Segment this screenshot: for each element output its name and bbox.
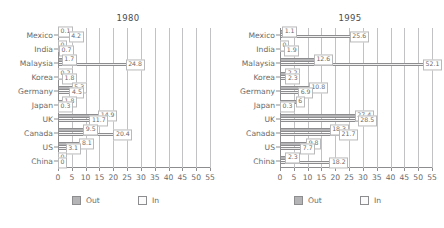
chart-row: US8.13.1: [58, 140, 210, 154]
chart-row: China2.318.2: [280, 154, 432, 168]
chart-row: Malaysia12.652.1: [280, 56, 432, 70]
chart-row: China00: [58, 154, 210, 168]
chart-row: UK14.911.7: [58, 112, 210, 126]
category-label: UK: [42, 115, 53, 124]
category-label: Japan: [32, 101, 53, 110]
x-tick: [210, 168, 211, 171]
x-tick: [404, 168, 405, 171]
value-label-in: 21.7: [339, 129, 358, 140]
category-label: China: [31, 157, 53, 166]
chart-row: Malaysia1.724.8: [58, 56, 210, 70]
chart-figure: 1980 Mexico0.14.2India00.7Malaysia1.724.…: [0, 0, 444, 228]
value-label-out: 1.7: [62, 54, 77, 65]
x-tick: [335, 168, 336, 171]
gridline: [210, 28, 211, 168]
x-tick-label: 55: [427, 173, 437, 182]
x-tick: [349, 168, 350, 171]
legend-item-in: In: [360, 196, 381, 205]
legend-item-in: In: [138, 196, 159, 205]
chart-row: Germany5.34.5: [58, 84, 210, 98]
x-tick-label: 25: [122, 173, 132, 182]
bar-out: [280, 58, 315, 61]
x-tick: [418, 168, 419, 171]
bar-in: [58, 119, 90, 122]
category-label: Canada: [24, 129, 53, 138]
x-tick: [182, 168, 183, 171]
value-label-out: 6: [296, 96, 305, 107]
x-tick-label: 30: [358, 173, 368, 182]
x-tick-label: 40: [386, 173, 396, 182]
x-tick-label: 50: [191, 173, 201, 182]
category-label: Malaysia: [242, 59, 275, 68]
x-tick: [377, 168, 378, 171]
x-tick-label: 35: [150, 173, 160, 182]
category-label: China: [253, 157, 275, 166]
value-label-out: 2.3: [285, 152, 300, 163]
x-axis-1980: 0510152025303540455055: [58, 168, 210, 190]
chart-row: Mexico0.14.2: [58, 28, 210, 42]
legend-label-in: In: [374, 196, 381, 205]
value-label-in: 20.4: [113, 129, 132, 140]
value-label-in: 0.3: [280, 101, 295, 112]
plot-area-1980: Mexico0.14.2India00.7Malaysia1.724.8Kore…: [58, 28, 210, 168]
legend-1995: Out In: [280, 196, 436, 218]
category-label: Germany: [240, 87, 275, 96]
chart-row: Mexico1.125.6: [280, 28, 432, 42]
x-tick-label: 15: [95, 173, 105, 182]
x-tick-label: 0: [278, 173, 283, 182]
bar-in: [280, 63, 424, 66]
x-tick: [363, 168, 364, 171]
chart-row: US9.87.7: [280, 140, 432, 154]
panel-title-text: 1995: [305, 13, 362, 23]
x-tick-label: 15: [317, 173, 327, 182]
value-label-out: 1.1: [282, 26, 297, 37]
panel-title-1980: 1980: [0, 13, 222, 23]
gridline: [432, 28, 433, 168]
value-label-in: 1.9: [284, 45, 299, 56]
plot-area-1995: Mexico1.125.6India01.9Malaysia12.652.1Ko…: [280, 28, 432, 168]
bar-rows-1980: Mexico0.14.2India00.7Malaysia1.724.8Kore…: [58, 28, 210, 168]
category-label: Japan: [254, 101, 275, 110]
value-label-in: 0: [58, 157, 67, 168]
legend-item-out: Out: [294, 196, 322, 205]
chart-row: UK27.428.5: [280, 112, 432, 126]
x-tick: [113, 168, 114, 171]
legend-swatch-out-icon: [294, 196, 303, 205]
chart-row: India00.7: [58, 42, 210, 56]
legend-swatch-in-icon: [138, 196, 147, 205]
legend-label-out: Out: [86, 196, 100, 205]
chart-row: India01.9: [280, 42, 432, 56]
chart-row: Canada18.321.7: [280, 126, 432, 140]
x-tick: [294, 168, 295, 171]
x-tick-label: 10: [303, 173, 313, 182]
x-tick-label: 10: [81, 173, 91, 182]
panel-title-1995: 1995: [222, 13, 444, 23]
value-label-in: 0.3: [58, 101, 73, 112]
x-tick: [141, 168, 142, 171]
chart-panel-1980: 1980 Mexico0.14.2India00.7Malaysia1.724.…: [0, 0, 222, 228]
x-tick: [58, 168, 59, 171]
value-label-in: 25.6: [350, 31, 369, 42]
x-tick: [99, 168, 100, 171]
bar-in: [280, 91, 299, 94]
x-tick: [72, 168, 73, 171]
value-label-in: 52.1: [423, 59, 442, 70]
legend-label-out: Out: [308, 196, 322, 205]
value-label-in: 2.3: [285, 73, 300, 84]
x-axis-1995: 0510152025303540455055: [280, 168, 432, 190]
category-label: India: [34, 45, 53, 54]
x-tick-label: 0: [56, 173, 61, 182]
value-label-in: 24.8: [126, 59, 145, 70]
bar-out: [58, 128, 84, 131]
value-label-in: 18.2: [329, 157, 348, 168]
legend-swatch-out-icon: [72, 196, 81, 205]
category-label: US: [43, 143, 53, 152]
category-label: Mexico: [248, 31, 275, 40]
x-tick: [432, 168, 433, 171]
category-label: India: [256, 45, 275, 54]
chart-row: Korea2.22.3: [280, 70, 432, 84]
legend-1980: Out In: [58, 196, 214, 218]
x-tick-label: 55: [205, 173, 215, 182]
category-label: Canada: [246, 129, 275, 138]
x-tick-label: 20: [108, 173, 118, 182]
